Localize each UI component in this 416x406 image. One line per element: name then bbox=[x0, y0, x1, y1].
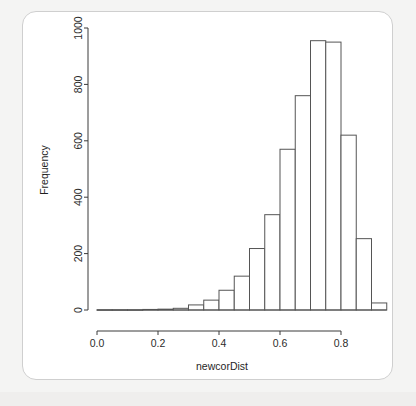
histogram-bar bbox=[372, 303, 387, 310]
histogram-bar bbox=[311, 41, 326, 310]
histogram-bar bbox=[189, 305, 204, 310]
y-axis-ticks bbox=[84, 28, 88, 310]
x-axis-ticks bbox=[97, 331, 341, 335]
histogram-bar bbox=[326, 42, 341, 310]
histogram-bar bbox=[234, 276, 249, 310]
histogram-bar bbox=[356, 239, 371, 310]
histogram-plot: 02004006008001000 0.00.20.40.60.8 Freque… bbox=[0, 0, 416, 406]
histogram-bar bbox=[280, 149, 295, 310]
histogram-bar bbox=[250, 249, 265, 310]
x-axis-tick-label: 0.4 bbox=[212, 337, 227, 349]
x-axis-tick-label: 0.8 bbox=[334, 337, 349, 349]
y-axis-tick-label: 600 bbox=[72, 132, 84, 150]
x-axis-tick-label: 0.2 bbox=[151, 337, 166, 349]
y-axis-tick-label: 0 bbox=[72, 307, 84, 313]
y-axis-tick-label: 200 bbox=[72, 245, 84, 263]
x-axis-title: newcorDist bbox=[196, 360, 248, 372]
y-axis-title: Frequency bbox=[38, 144, 50, 194]
histogram-svg: 02004006008001000 0.00.20.40.60.8 Freque… bbox=[0, 0, 416, 406]
histogram-bar bbox=[204, 300, 219, 310]
y-axis-tick-label: 800 bbox=[72, 75, 84, 93]
page-bottom-strip bbox=[0, 392, 416, 406]
histogram-bars bbox=[97, 41, 387, 311]
histogram-bar bbox=[341, 135, 356, 310]
y-axis-tick-label: 1000 bbox=[72, 16, 84, 40]
x-axis-tick-label: 0.6 bbox=[273, 337, 288, 349]
y-axis-tick-labels: 02004006008001000 bbox=[72, 16, 84, 313]
histogram-bar bbox=[265, 215, 280, 310]
histogram-bar bbox=[219, 290, 234, 310]
figure-page: 02004006008001000 0.00.20.40.60.8 Freque… bbox=[0, 0, 416, 406]
y-axis-tick-label: 400 bbox=[72, 188, 84, 206]
x-axis-tick-labels: 0.00.20.40.60.8 bbox=[90, 337, 349, 349]
histogram-bar bbox=[295, 96, 310, 310]
x-axis-tick-label: 0.0 bbox=[90, 337, 105, 349]
